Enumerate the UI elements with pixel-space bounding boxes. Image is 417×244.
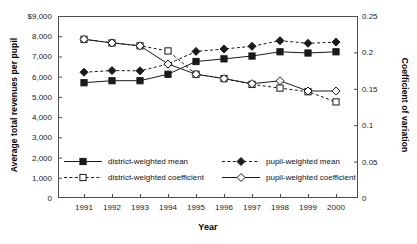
x-tick-label: 1992	[103, 203, 121, 212]
y-left-tick-label: 3,000	[6, 133, 52, 142]
legend-swatch	[62, 154, 106, 169]
series-marker	[249, 53, 255, 59]
series-marker	[80, 68, 88, 76]
legend-label: pupil-weighted coefficient	[266, 170, 356, 185]
series-marker	[276, 77, 284, 85]
series-marker	[136, 67, 144, 75]
y-left-tick-label: 7,000	[6, 52, 52, 61]
series-marker	[108, 67, 116, 75]
x-tick-label: 1993	[131, 203, 149, 212]
series-marker	[164, 60, 172, 68]
legend-label: pupil-weighted mean	[266, 154, 340, 169]
series-marker	[277, 85, 283, 91]
series-3	[80, 35, 340, 95]
x-tick-label: 2000	[327, 203, 345, 212]
legend-marker	[80, 158, 86, 164]
legend-marker	[237, 158, 245, 166]
x-tick-label: 1997	[243, 203, 261, 212]
y-left-tick-label: 1,000	[6, 173, 52, 182]
series-marker	[304, 39, 312, 47]
series-marker	[276, 37, 284, 45]
series-marker	[165, 48, 171, 54]
y-right-tick-label: 0.25	[362, 12, 402, 21]
y-left-tick-label: $9,000	[6, 12, 52, 21]
series-marker	[221, 56, 227, 62]
series-marker	[332, 38, 340, 46]
legend-marker	[80, 174, 86, 180]
series-1	[80, 37, 340, 77]
x-tick-label: 1991	[75, 203, 93, 212]
chart-figure: Average total revenues per pupil Coeffic…	[0, 0, 417, 244]
series-marker	[81, 80, 87, 86]
y-right-tick-label: 0.1	[362, 121, 402, 130]
legend-marker	[237, 174, 245, 182]
legend-label: district-weighted coefficient	[108, 170, 204, 185]
y-right-tick-label: 0.2	[362, 48, 402, 57]
x-tick-label: 1995	[187, 203, 205, 212]
y-right-tick-label: 0.05	[362, 157, 402, 166]
series-line	[84, 52, 336, 83]
x-tick-label: 1999	[299, 203, 317, 212]
legend-label: district-weighted mean	[108, 154, 188, 169]
series-0	[81, 49, 339, 86]
series-marker	[192, 47, 200, 55]
x-tick-label: 1994	[159, 203, 177, 212]
series-line	[84, 39, 336, 91]
y-left-tick-label: 2,000	[6, 153, 52, 162]
chart-legend: district-weighted meanpupil-weighted mea…	[62, 154, 358, 188]
series-marker	[248, 42, 256, 50]
x-tick-label: 1996	[215, 203, 233, 212]
y-left-tick-label: 4,000	[6, 113, 52, 122]
y-left-tick-label: 8,000	[6, 32, 52, 41]
series-marker	[333, 49, 339, 55]
legend-swatch	[220, 170, 264, 185]
series-marker	[193, 58, 199, 64]
y-right-tick-label: 0.15	[362, 84, 402, 93]
legend-swatch	[220, 154, 264, 169]
x-tick-label: 1998	[271, 203, 289, 212]
series-marker	[109, 78, 115, 84]
y-left-tick-label: 5,000	[6, 92, 52, 101]
series-marker	[277, 49, 283, 55]
series-marker	[165, 71, 171, 77]
x-axis-ticks: 1991199219931994199519961997199819992000	[0, 201, 417, 217]
x-axis-title: Year	[58, 222, 358, 232]
series-2	[81, 36, 339, 105]
series-marker	[332, 87, 340, 95]
y-left-tick-label: 6,000	[6, 72, 52, 81]
series-marker	[137, 78, 143, 84]
series-marker	[305, 50, 311, 56]
series-line	[84, 41, 336, 72]
series-marker	[220, 45, 228, 53]
series-marker	[333, 99, 339, 105]
legend-swatch	[62, 170, 106, 185]
